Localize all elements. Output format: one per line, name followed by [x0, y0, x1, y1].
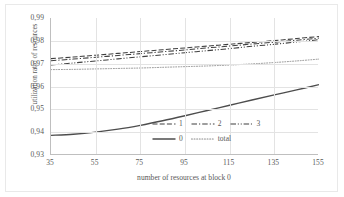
- legend-label-2: 2: [218, 120, 222, 128]
- gridline-vertical: [96, 18, 97, 154]
- legend-swatch-3: [230, 120, 254, 128]
- chart-legend: 1230total: [152, 116, 312, 150]
- legend-item-3[interactable]: 3: [230, 120, 261, 128]
- legend-label-total: total: [218, 135, 231, 143]
- x-axis-tick-label: 75: [124, 159, 154, 167]
- gridline-vertical: [140, 18, 141, 154]
- legend-item-total[interactable]: total: [191, 135, 231, 143]
- x-axis-tick-label: 135: [258, 159, 288, 167]
- chart-figure: 0,990,980,970,960,950,940,93 utilization…: [0, 0, 344, 197]
- y-axis-tick-label: 0,93: [4, 151, 44, 159]
- legend-row: 123: [152, 116, 312, 131]
- x-axis-title: number of resources at block 0: [50, 173, 318, 182]
- legend-label-1: 1: [179, 120, 183, 128]
- legend-item-2[interactable]: 2: [191, 120, 222, 128]
- legend-swatch-total: [191, 135, 215, 143]
- x-axis-tick-label: 95: [169, 159, 199, 167]
- legend-swatch-1: [152, 120, 176, 128]
- legend-swatch-0: [152, 135, 176, 143]
- x-axis-tick-label: 115: [214, 159, 244, 167]
- legend-item-1[interactable]: 1: [152, 120, 183, 128]
- legend-label-3: 3: [257, 120, 261, 128]
- legend-label-0: 0: [179, 135, 183, 143]
- y-axis-title-wrapper: utilization ratio of resources: [14, 20, 28, 152]
- legend-swatch-2: [191, 120, 215, 128]
- x-axis-tick-label: 35: [35, 159, 65, 167]
- y-axis-title: utilization ratio of resources: [31, 2, 39, 126]
- x-axis-tick-label: 55: [80, 159, 110, 167]
- legend-item-0[interactable]: 0: [152, 135, 183, 143]
- legend-row: 0total: [152, 131, 312, 146]
- x-axis-tick-label: 155: [303, 159, 333, 167]
